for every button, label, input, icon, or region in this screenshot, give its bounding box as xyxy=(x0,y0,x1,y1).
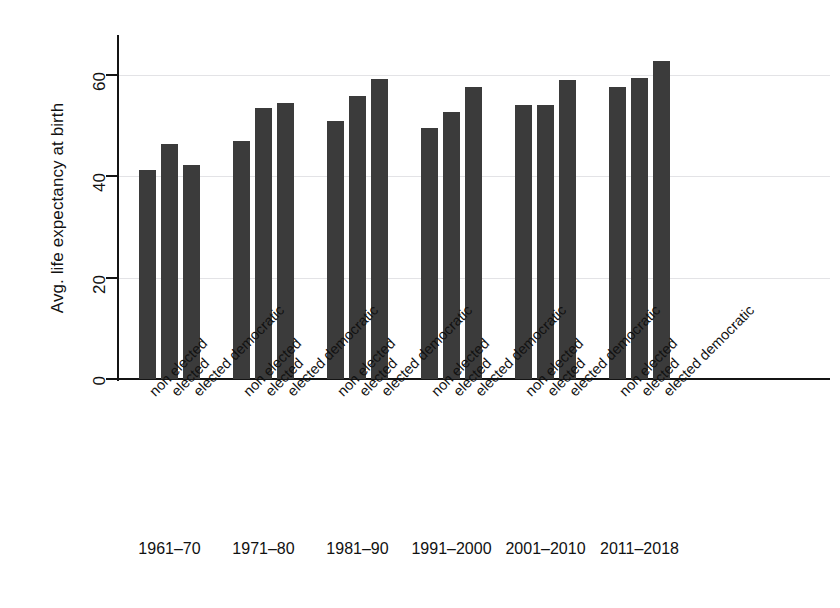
bar xyxy=(371,79,388,379)
period-label: 2001–2010 xyxy=(505,540,585,558)
y-axis-tick: 0 xyxy=(106,378,118,380)
y-axis-tick: 20 xyxy=(106,277,118,279)
period-label: 1991–2000 xyxy=(411,540,491,558)
period-axis-labels: 1961–701971–801981–901991–20002001–20102… xyxy=(117,540,830,564)
period-label: 1961–70 xyxy=(138,540,200,558)
y-axis-tick-label: 60 xyxy=(90,72,110,91)
bar xyxy=(161,144,178,379)
y-axis-tick-label: 20 xyxy=(90,275,110,294)
period-label: 1971–80 xyxy=(232,540,294,558)
y-axis-line xyxy=(117,35,119,381)
bar xyxy=(139,170,156,379)
period-label: 1981–90 xyxy=(326,540,388,558)
bar xyxy=(653,61,670,379)
y-axis-tick: 60 xyxy=(106,74,118,76)
period-label: 2011–2018 xyxy=(600,540,679,558)
y-axis-tick-label: 40 xyxy=(90,173,110,192)
bar xyxy=(559,80,576,379)
bar-chart-figure: Avg. life expectancy at birth 0204060 19… xyxy=(0,0,840,608)
y-axis-title: Avg. life expectancy at birth xyxy=(48,38,68,378)
gridline xyxy=(119,75,830,76)
y-axis-tick-label: 0 xyxy=(90,376,110,385)
y-axis-tick: 40 xyxy=(106,175,118,177)
